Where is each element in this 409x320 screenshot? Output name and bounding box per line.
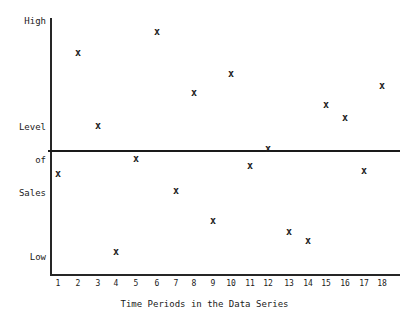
data-point: x [209, 215, 218, 226]
y-axis-title-line-2: of [0, 155, 46, 166]
x-tick-label: 7 [168, 279, 184, 289]
x-tick-label: 12 [260, 279, 276, 289]
data-point: x [246, 160, 255, 171]
x-tick-label: 6 [149, 279, 165, 289]
y-axis-title-line-3: Sales [0, 188, 46, 199]
y-axis-title-line-1: Level [0, 122, 46, 133]
x-tick-label: 3 [90, 279, 106, 289]
x-tick-label: 15 [318, 279, 334, 289]
data-point: x [112, 246, 121, 257]
x-tick-label: 13 [281, 279, 297, 289]
scatter-plot-figure: High Level of Sales Low xxxxxxxxxxxxxxxx… [0, 0, 409, 320]
data-point: x [94, 120, 103, 131]
x-tick-label: 10 [223, 279, 239, 289]
data-point: x [54, 168, 63, 179]
y-axis-title: Level of Sales [0, 100, 46, 221]
x-tick-label: 17 [356, 279, 372, 289]
data-point: x [264, 143, 273, 154]
x-tick-label: 8 [186, 279, 202, 289]
data-point: x [285, 226, 294, 237]
x-tick-label: 5 [128, 279, 144, 289]
data-point: x [153, 26, 162, 37]
x-tick-label: 11 [242, 279, 258, 289]
data-point: x [132, 153, 141, 164]
data-point: x [378, 80, 387, 91]
x-tick-label: 2 [70, 279, 86, 289]
trend-line [48, 150, 400, 152]
x-tick-label: 4 [108, 279, 124, 289]
data-point: x [227, 68, 236, 79]
data-point: x [190, 87, 199, 98]
data-point: x [360, 165, 369, 176]
x-tick-label: 18 [374, 279, 390, 289]
data-point: x [341, 112, 350, 123]
y-axis-low-label: Low [0, 252, 46, 263]
x-axis-title: Time Periods in the Data Series [0, 299, 409, 310]
data-point: x [172, 185, 181, 196]
x-tick-label: 14 [300, 279, 316, 289]
x-tick-label: 1 [50, 279, 66, 289]
x-tick-label: 16 [337, 279, 353, 289]
y-axis-line [50, 18, 52, 276]
x-tick-label: 9 [205, 279, 221, 289]
y-axis-high-label: High [0, 16, 46, 27]
data-point: x [322, 99, 331, 110]
x-axis-line [50, 274, 400, 276]
data-point: x [304, 235, 313, 246]
data-point: x [74, 47, 83, 58]
